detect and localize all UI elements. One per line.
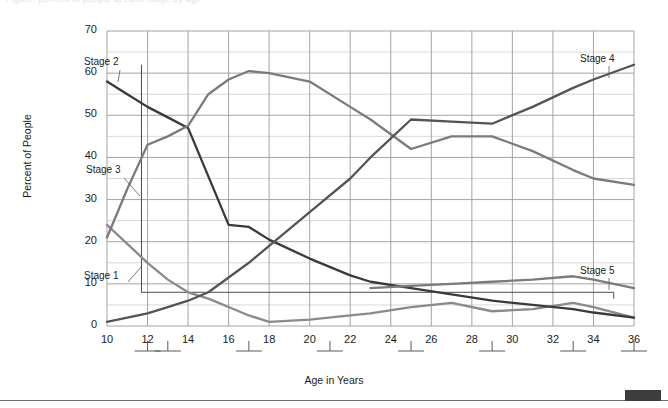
x-tick-label: 36	[619, 333, 649, 345]
x-tick-label: 34	[578, 333, 608, 345]
x-tick-label: 22	[335, 333, 365, 345]
x-axis-title: Age in Years	[0, 374, 668, 386]
x-tick-label: 30	[497, 333, 527, 345]
series-label-stage-3: Stage 3	[86, 164, 120, 175]
series-line-stage-4	[107, 65, 634, 322]
x-tick-label: 18	[254, 333, 284, 345]
series-layer	[107, 65, 634, 322]
y-tick-label: 0	[67, 318, 97, 330]
leader-line	[118, 70, 120, 82]
series-label-stage-1: Stage 1	[84, 270, 118, 281]
leader-line	[128, 266, 142, 282]
leader-line-layer	[118, 66, 609, 290]
y-tick-label: 70	[67, 23, 97, 35]
bottom-rule	[0, 400, 668, 401]
x-tick-label: 28	[457, 333, 487, 345]
y-tick-label: 30	[67, 192, 97, 204]
annotation-layer	[141, 65, 613, 299]
x-tick-label: 16	[214, 333, 244, 345]
series-label-stage-2: Stage 2	[84, 56, 118, 67]
series-line-stage-5	[371, 276, 635, 288]
corner-block	[625, 390, 661, 401]
x-tick-label: 26	[416, 333, 446, 345]
y-tick-label: 20	[67, 234, 97, 246]
y-tick-label: 40	[67, 149, 97, 161]
x-tick-label: 32	[538, 333, 568, 345]
series-label-stage-4: Stage 4	[580, 53, 614, 64]
x-tick-label: 24	[376, 333, 406, 345]
series-label-stage-5: Stage 5	[580, 265, 614, 276]
y-tick-label: 50	[67, 107, 97, 119]
x-tick-label: 14	[173, 333, 203, 345]
x-tick-label: 12	[133, 333, 163, 345]
x-tick-label: 20	[295, 333, 325, 345]
y-axis-title: Percent of People	[21, 96, 33, 216]
x-tick-label: 10	[92, 333, 122, 345]
